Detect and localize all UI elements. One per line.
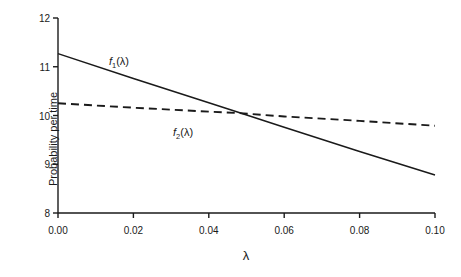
series-annotation-f2: f2(λ) xyxy=(173,126,193,141)
x-axis-label: λ xyxy=(243,248,250,263)
series-line-f2 xyxy=(58,103,435,125)
y-axis-label: Probability per time xyxy=(47,91,59,185)
y-tick-label: 12 xyxy=(26,13,50,24)
x-tick-label: 0.10 xyxy=(425,225,444,236)
x-tick-label: 0.02 xyxy=(124,225,143,236)
plot-canvas xyxy=(0,0,461,277)
x-tick-label: 0.06 xyxy=(274,225,293,236)
x-tick-label: 0.00 xyxy=(48,225,67,236)
f2-argument: (λ) xyxy=(180,126,193,138)
x-axis-ticks xyxy=(58,213,435,218)
x-tick-label: 0.04 xyxy=(199,225,218,236)
series-annotation-f1: f1(λ) xyxy=(109,55,129,70)
chart-figure: 89101112 0.000.020.040.060.080.10 Probab… xyxy=(0,0,461,277)
y-tick-label: 11 xyxy=(26,61,50,72)
x-tick-label: 0.08 xyxy=(350,225,369,236)
y-tick-label: 8 xyxy=(26,208,50,219)
f1-argument: (λ) xyxy=(116,55,129,67)
